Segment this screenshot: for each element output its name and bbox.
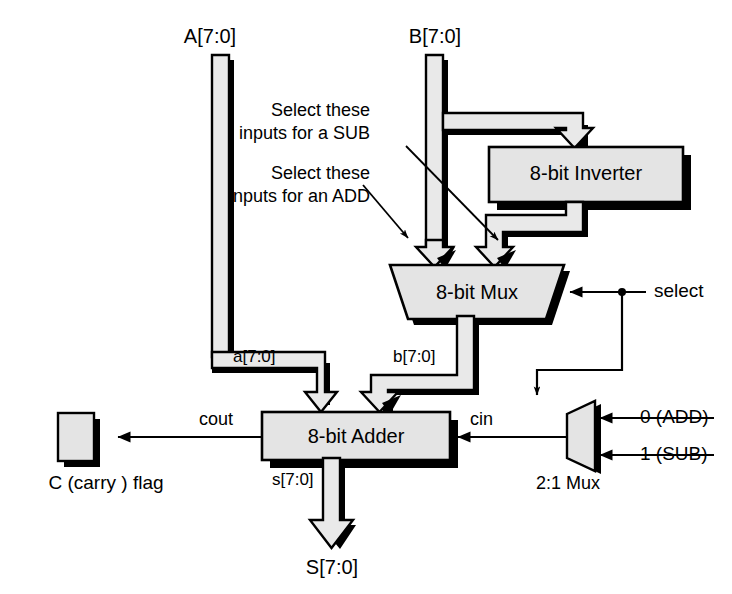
label-carry-flag: C (carry ) flag	[16, 472, 196, 494]
annotation-arrow-sub-main	[406, 146, 498, 240]
diagram-canvas: A[7:0] B[7:0] Select these inputs for a …	[0, 0, 732, 594]
diagram-graphics	[0, 0, 732, 594]
label-input-b: B[7:0]	[375, 25, 495, 49]
label-signal-cout: cout	[199, 409, 233, 430]
label-mux21-input-1: 1 (SUB)	[640, 443, 708, 465]
label-signal-b-internal: b[7:0]	[393, 347, 436, 367]
label-mux8: 8-bit Mux	[399, 281, 555, 305]
annotation-sub-line1: Select these	[230, 100, 370, 121]
label-input-a: A[7:0]	[150, 25, 270, 49]
label-signal-a-internal: a[7:0]	[233, 347, 276, 367]
label-mux21-input-0: 0 (ADD)	[640, 406, 709, 428]
label-inverter: 8-bit Inverter	[489, 162, 683, 186]
carry-flag-box	[58, 413, 94, 461]
bus-b	[426, 55, 443, 245]
mux21-block	[567, 401, 595, 471]
annotation-add-line1: Select these	[230, 163, 370, 184]
annotation-sub-line2: inputs for a SUB	[200, 123, 370, 144]
label-signal-cin: cin	[470, 409, 493, 430]
annotation-add-line2: inputs for an ADD	[190, 186, 370, 207]
label-output-sum: S[7:0]	[272, 556, 392, 580]
bus-b-branch	[443, 113, 593, 148]
label-adder: 8-bit Adder	[262, 425, 450, 449]
label-signal-s-internal: s[7:0]	[272, 470, 314, 490]
label-signal-select: select	[654, 280, 704, 302]
label-mux21: 2:1 Mux	[536, 473, 600, 494]
